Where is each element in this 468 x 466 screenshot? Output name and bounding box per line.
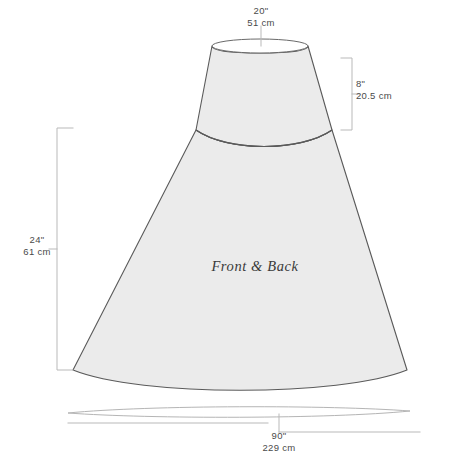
diagram-canvas: [0, 0, 468, 466]
skirt-pattern-diagram: 20" 51 cm 8" 20.5 cm 24" 61 cm 90" 229 c…: [0, 0, 468, 466]
length-imperial-value: 24": [8, 234, 66, 246]
yoke-metric-value: 20.5 cm: [356, 90, 426, 102]
watermark: [3, 455, 5, 462]
hem-dimension-label: 90" 229 cm: [236, 430, 322, 454]
waist-metric-value: 51 cm: [218, 17, 304, 29]
waist-opening-ellipse: [212, 39, 308, 53]
yoke-bracket: [341, 58, 352, 130]
length-dimension-label: 24" 61 cm: [8, 234, 66, 258]
yoke-dimension-label: 8" 20.5 cm: [356, 78, 426, 102]
length-metric-value: 61 cm: [8, 246, 66, 258]
hem-circumference-lens: [68, 407, 410, 418]
hem-imperial-value: 90": [236, 430, 322, 442]
waist-imperial-value: 20": [218, 5, 304, 17]
pattern-piece-label: Front & Back: [178, 258, 332, 275]
hem-metric-value: 229 cm: [236, 442, 322, 454]
waist-dimension-label: 20" 51 cm: [218, 5, 304, 29]
skirt-yoke-shape: [196, 46, 332, 147]
yoke-imperial-value: 8": [356, 78, 426, 90]
